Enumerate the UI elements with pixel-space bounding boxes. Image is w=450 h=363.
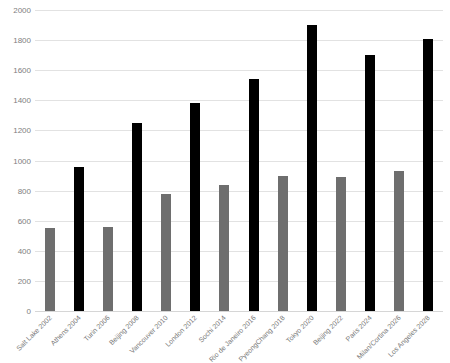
y-tick-label: 1400: [13, 96, 31, 105]
y-axis: 0200400600800100012001400160018002000: [0, 0, 35, 321]
bar: [190, 103, 200, 311]
bar-group: [35, 10, 443, 311]
bar: [249, 79, 259, 311]
y-tick-label: 2000: [13, 6, 31, 15]
y-tick-label: 1000: [13, 156, 31, 165]
x-tick-label: Sochi 2014: [198, 314, 228, 344]
y-tick-label: 600: [18, 216, 31, 225]
x-tick-label: London 2012: [164, 314, 198, 348]
plot-area: [35, 10, 443, 311]
y-tick-label: 1200: [13, 126, 31, 135]
x-tick-label: Beijing 2022: [312, 314, 344, 346]
bar: [132, 123, 142, 311]
bar: [423, 39, 433, 311]
bar: [278, 176, 288, 311]
x-tick-label: Turin 2006: [82, 314, 110, 342]
x-axis: Salt Lake 2002Athens 2004Turin 2006Beiji…: [35, 311, 443, 356]
y-tick-label: 1600: [13, 66, 31, 75]
y-tick-label: 0: [27, 307, 31, 316]
bar: [103, 227, 113, 311]
bar: [45, 228, 55, 311]
bar: [307, 25, 317, 311]
bar: [336, 177, 346, 311]
bar: [74, 167, 84, 311]
bar: [219, 185, 229, 311]
y-tick-label: 800: [18, 186, 31, 195]
bar: [394, 171, 404, 311]
y-tick-label: 1800: [13, 36, 31, 45]
y-tick-label: 200: [18, 276, 31, 285]
x-tick-label: Paris 2024: [344, 314, 373, 343]
bar: [161, 194, 171, 311]
y-tick-label: 400: [18, 246, 31, 255]
x-tick-label: Tokyo 2020: [285, 314, 315, 344]
bar: [365, 55, 375, 311]
x-tick-label: Athens 2004: [49, 314, 82, 347]
